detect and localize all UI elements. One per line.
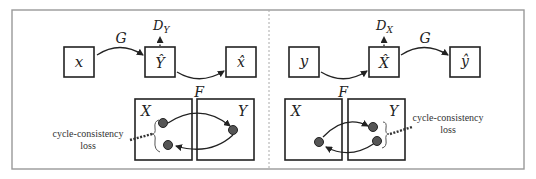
node-y-hat: ŷ: [450, 47, 480, 77]
node-y-label: y: [299, 52, 309, 70]
sample-point: [315, 138, 324, 147]
node-x-hat: x̂: [226, 47, 256, 77]
arrow-g: [401, 48, 448, 56]
node-x-hat: X̂: [369, 47, 399, 77]
reconstructed-point: [369, 123, 378, 132]
domain-x-label: X: [290, 103, 302, 119]
domain-x-label: X: [140, 103, 152, 119]
loss-label-line1: cycle-consistency: [52, 128, 123, 139]
mapped-point: [373, 137, 382, 146]
label-f: F: [193, 84, 205, 100]
loss-label-line2: loss: [440, 124, 456, 135]
node-y: y: [289, 47, 319, 77]
label-g: G: [419, 30, 430, 46]
node-x-hat-label: x̂: [237, 54, 245, 70]
arrow-f: [321, 71, 367, 79]
label-g: G: [115, 30, 126, 46]
domain-y-box: Y: [197, 99, 254, 160]
node-y-hat: Ŷ: [145, 47, 175, 77]
right-panel: y X̂ ŷ F G DX X Y: [285, 18, 484, 160]
arrow-f: [177, 71, 224, 79]
loss-label-line2: loss: [80, 140, 96, 151]
reconstructed-point: [164, 141, 173, 150]
left-panel: x Ŷ x̂ G F DY X Y: [52, 18, 256, 160]
cycle-gan-diagram: x Ŷ x̂ G F DY X Y: [0, 0, 536, 179]
arrow-g: [97, 48, 143, 56]
domain-x-box: X: [135, 99, 192, 160]
node-x: x: [64, 47, 94, 77]
label-f: F: [337, 84, 349, 100]
label-discriminator: DY: [152, 18, 170, 35]
node-y-hat-label: ŷ: [460, 53, 470, 69]
mapped-point: [229, 126, 238, 135]
node-x-hat-label: X̂: [378, 54, 390, 71]
sample-point: [159, 119, 168, 128]
label-discriminator: DX: [375, 18, 393, 35]
node-x-label: x: [75, 53, 84, 71]
loss-label-line1: cycle-consistency: [412, 112, 483, 123]
